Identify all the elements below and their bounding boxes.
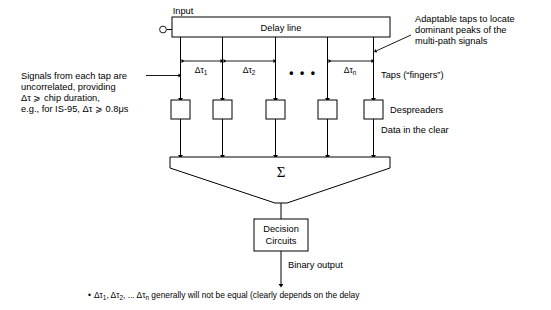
- tap-spacing-label-2: Δτ2: [243, 65, 256, 76]
- despreader-boxes-group: [171, 100, 383, 119]
- decision-circuits-label-line2: Circuits: [266, 236, 297, 246]
- binary-output-label: Binary output: [288, 260, 343, 270]
- taps-fingers-label: Taps (“fingers”): [381, 70, 444, 80]
- despreader-box-3: [266, 100, 285, 119]
- adaptable-taps-annotation-line3: multi-path signals: [415, 36, 488, 46]
- summation-symbol: Σ: [277, 164, 286, 180]
- diagram-canvas: Delay line Input Δτ1 Δτ2 Δτn • • • Σ Dec…: [0, 0, 551, 310]
- despreaders-label: Despreaders: [390, 105, 444, 115]
- footnote-part-3: , ... Δτ: [123, 290, 146, 300]
- tap-spacing-label-1: Δτ1: [195, 65, 208, 76]
- tap-spacing-sub-1: 1: [204, 69, 208, 76]
- input-label: Input: [173, 6, 194, 16]
- tap-spacing-sub-n: n: [353, 69, 357, 76]
- signals-annotation-line1: Signals from each tap are: [21, 71, 127, 81]
- footnote: •Δτ1, Δτ2, ... Δτn generally will not be…: [88, 290, 360, 301]
- tap-ellipsis: • • •: [289, 66, 316, 80]
- despreader-output-lines: [181, 119, 374, 156]
- despreader-box-4: [318, 100, 337, 119]
- rake-receiver-diagram: Delay line Input Δτ1 Δτ2 Δτn • • • Σ Dec…: [0, 0, 551, 310]
- despreader-box-5: [364, 100, 383, 119]
- tap-spacing-sub-2: 2: [252, 69, 256, 76]
- despreader-box-1: [171, 100, 190, 119]
- decision-circuits-label-line1: Decision: [263, 224, 299, 234]
- data-in-the-clear-label: Data in the clear: [381, 125, 449, 135]
- adaptable-taps-annotation-line1: Adaptable taps to locate: [415, 14, 515, 24]
- delay-line-label: Delay line: [261, 23, 302, 33]
- signals-annotation-line3: Δτ ⩾ chip duration,: [21, 93, 100, 103]
- signals-annotation-line4: e.g., for IS-95, Δτ ⩾ 0.8μs: [21, 104, 129, 114]
- tap-spacing-label-n: Δτn: [344, 65, 357, 76]
- footnote-bullet: •: [88, 290, 91, 300]
- footnote-part-4: generally will not be equal (clearly dep…: [149, 290, 360, 300]
- input-terminal-circle: [160, 26, 167, 33]
- footnote-part-2: , Δτ: [106, 290, 120, 300]
- adaptable-taps-annotation-line2: dominant peaks of the: [415, 25, 506, 35]
- despreader-box-2: [213, 100, 232, 119]
- signals-annotation-line2: uncorrelated, providing: [21, 82, 116, 92]
